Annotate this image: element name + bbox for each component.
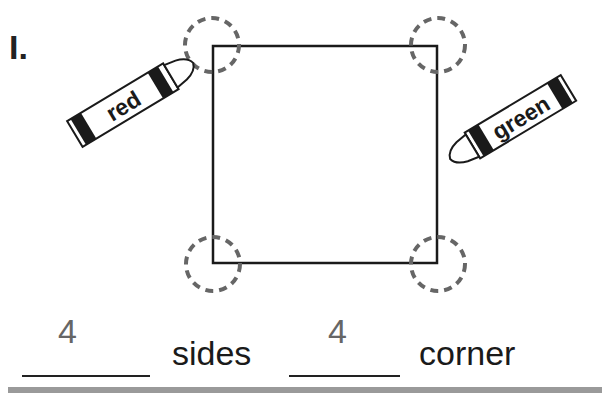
answer-sides-blank[interactable]: [22, 375, 150, 377]
sides-label: sides: [172, 334, 251, 373]
answer-corners-blank[interactable]: [289, 375, 400, 377]
red-crayon-icon: red: [67, 50, 201, 147]
corner-label: corner: [419, 334, 515, 373]
answer-sides-value: 4: [58, 312, 77, 351]
section-divider: [8, 387, 602, 393]
green-crayon-icon: green: [442, 75, 576, 172]
answer-corners-value: 4: [328, 312, 347, 351]
square-shape: [213, 46, 437, 263]
